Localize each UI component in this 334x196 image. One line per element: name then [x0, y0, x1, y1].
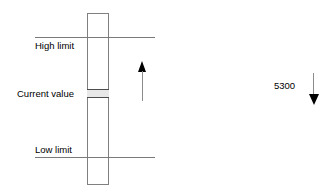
current-value-label: Current value: [17, 89, 74, 99]
low-limit-line: [35, 157, 155, 158]
reading-value: 5300: [274, 81, 295, 91]
arrow-down-head: [309, 94, 319, 105]
arrow-up-shaft: [142, 71, 143, 101]
gauge-diagram: High limit Current value Low limit 5300: [0, 0, 334, 196]
low-limit-label: Low limit: [35, 145, 72, 155]
gauge-column: [87, 13, 109, 185]
high-limit-label: High limit: [35, 41, 74, 51]
arrow-down-shaft: [313, 73, 314, 95]
high-limit-line: [35, 37, 155, 38]
current-value-band: [87, 89, 109, 98]
